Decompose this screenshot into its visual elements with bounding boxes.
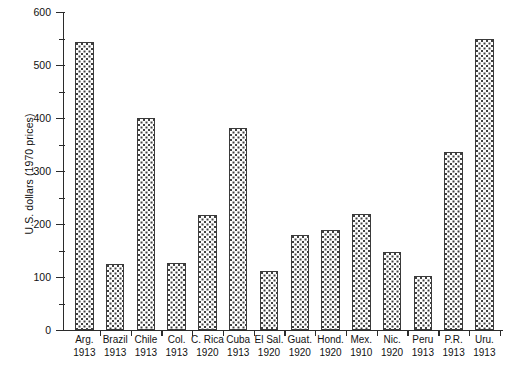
y-axis-minor-tick xyxy=(59,251,65,252)
y-axis-tick-label: 400 xyxy=(9,112,51,124)
y-axis-minor-tick xyxy=(59,92,65,93)
bar xyxy=(291,235,309,330)
bar xyxy=(444,152,462,330)
y-axis-minor-tick xyxy=(59,145,65,146)
bar xyxy=(321,230,339,330)
y-axis-tick-label: 200 xyxy=(9,218,51,230)
y-axis-tick xyxy=(56,277,65,278)
y-axis-tick-label: 300 xyxy=(9,165,51,177)
x-axis-labels: Arg.1913Brazil1913Chile1913Col.1913C. Ri… xyxy=(63,334,503,374)
plot-area: 0100200300400500600 xyxy=(63,12,503,330)
category-name: Uru. xyxy=(465,334,504,347)
bar xyxy=(167,263,185,330)
bar xyxy=(106,264,124,330)
bar xyxy=(198,215,216,330)
y-axis-minor-tick xyxy=(59,39,65,40)
y-axis-tick xyxy=(56,171,65,172)
y-axis-tick-label: 500 xyxy=(9,59,51,71)
y-axis-tick xyxy=(56,224,65,225)
bar-series xyxy=(63,12,503,330)
y-axis-tick xyxy=(56,65,65,66)
category-year: 1913 xyxy=(465,347,504,360)
bar xyxy=(414,276,432,330)
y-axis-tick-label: 600 xyxy=(9,6,51,18)
y-axis-minor-tick xyxy=(59,198,65,199)
bar xyxy=(229,128,247,330)
y-axis-tick-label: 100 xyxy=(9,271,51,283)
x-axis-category-label: Uru.1913 xyxy=(465,334,504,359)
x-axis-line xyxy=(63,330,503,331)
y-axis-tick xyxy=(56,118,65,119)
bar xyxy=(352,214,370,330)
bar xyxy=(383,252,401,330)
bar-chart: U.S. dollars (1970 prices) 0100200300400… xyxy=(0,0,515,376)
y-axis-tick xyxy=(56,12,65,13)
bar xyxy=(260,271,278,330)
bar xyxy=(75,42,93,330)
y-axis-minor-tick xyxy=(59,304,65,305)
y-axis-tick-label: 0 xyxy=(9,324,51,336)
bar xyxy=(137,118,155,330)
bar xyxy=(475,39,493,331)
y-axis-tick xyxy=(56,330,65,331)
